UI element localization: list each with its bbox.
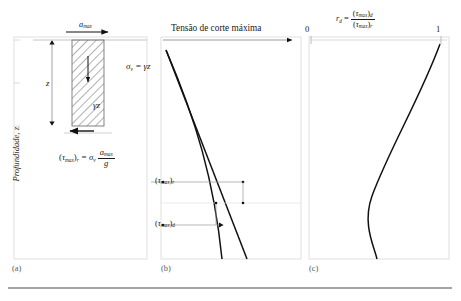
tau-max-rigid-formula: (τmax)r = σv amax g: [59, 148, 115, 169]
column-unit-weight-label: γz: [93, 101, 100, 110]
rd-tick-zero: 0: [305, 25, 309, 34]
depth-dimension-label: z: [46, 79, 49, 88]
amax-over-g-fraction: amax g: [98, 148, 115, 169]
caption-b: (b): [161, 265, 171, 273]
panel-a-graphic: [14, 32, 147, 133]
rd-tick-one: 1: [436, 25, 440, 34]
rd-fraction: (τmax)d (τmax)r: [351, 9, 375, 30]
caption-a: (a): [12, 265, 21, 273]
tau-max-deformable-dimension-label: (τmax)d: [155, 220, 175, 229]
panel-b-axis-title: Tensão de corte máxima: [171, 24, 261, 33]
rd-definition-formula: rd = (τmax)d (τmax)r: [336, 9, 375, 30]
vertical-stress-label: σv = γz: [126, 62, 151, 72]
caption-c: (c): [309, 265, 318, 273]
panel-c-graphic: [311, 36, 447, 259]
y-axis-title: Profundidade, z: [12, 106, 21, 202]
curve-rd: [368, 44, 440, 259]
tau-max-rigid-dimension-label: (τmax)r: [155, 177, 174, 186]
amax-label: amax: [79, 21, 92, 30]
figure-root: Profundidade, z amax z σv = γz γz (τmax)…: [0, 0, 461, 301]
